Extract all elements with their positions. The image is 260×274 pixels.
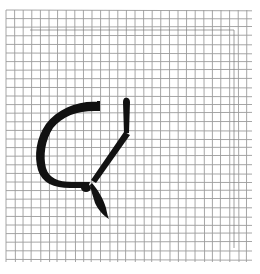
drawing-svg [0, 0, 260, 274]
ink-character [36, 98, 130, 219]
grid-paper-drawing [0, 0, 260, 274]
